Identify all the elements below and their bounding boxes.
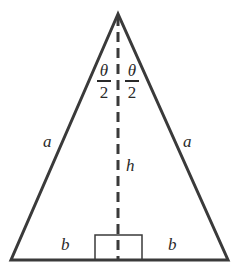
- left-half-angle-label: θ 2: [96, 62, 112, 101]
- theta-numerator: θ: [96, 62, 112, 79]
- triangle-canvas: [0, 0, 238, 278]
- two-denominator: 2: [124, 84, 140, 101]
- left-half-base-label: b: [61, 236, 70, 253]
- theta-numerator: θ: [124, 62, 140, 79]
- fraction-bar: [125, 80, 139, 82]
- left-side-label: a: [43, 133, 52, 150]
- right-half-angle-label: θ 2: [124, 62, 140, 101]
- height-label: h: [126, 157, 135, 174]
- fraction-bar: [97, 80, 111, 82]
- right-side-label: a: [183, 133, 192, 150]
- two-denominator: 2: [96, 84, 112, 101]
- right-half-base-label: b: [168, 236, 177, 253]
